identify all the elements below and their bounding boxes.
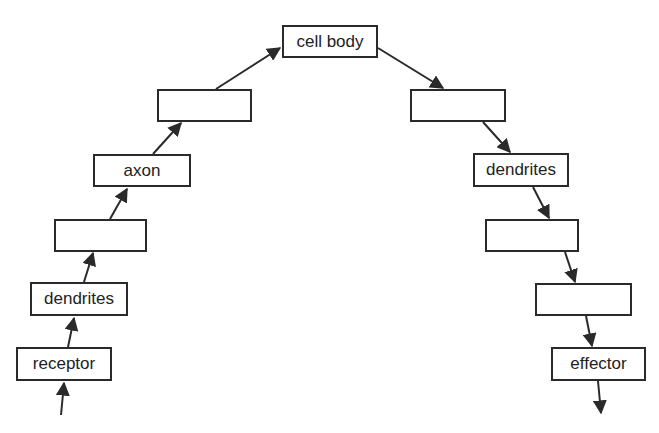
node-dendrites-in: dendrites	[30, 282, 128, 316]
node-blank-left-1	[54, 219, 147, 252]
arrow-effector-to-output	[598, 381, 601, 413]
arrow-blank-left-1-to-axon	[110, 189, 127, 219]
arrow-axon-to-blank-left-2	[153, 123, 181, 154]
node-blank-right-3	[535, 283, 632, 316]
node-dendrites-out: dendrites	[473, 153, 569, 187]
arrow-blank-right-2-to-blank-right-3	[565, 252, 575, 282]
node-cell-body: cell body	[282, 25, 378, 58]
node-blank-right-1	[410, 89, 506, 122]
node-blank-right-2	[485, 219, 579, 252]
node-axon: axon	[93, 154, 191, 187]
arrow-blank-right-3-to-effector	[586, 316, 592, 346]
arrow-blank-right-1-to-dendrites-out	[483, 122, 510, 152]
arrow-receptor-to-dendrites-in	[68, 318, 74, 347]
arrow-dendrites-out-to-blank-right-2	[533, 187, 549, 218]
node-effector: effector	[551, 347, 646, 381]
arrow-blank-left-2-to-cell-body	[216, 48, 280, 89]
node-receptor: receptor	[16, 347, 112, 381]
arrow-dendrites-in-to-blank-left-1	[84, 253, 93, 282]
arrow-cell-body-to-blank-right-1	[378, 48, 443, 88]
neural-pathway-diagram: receptordendritesaxoncell bodydendritese…	[0, 0, 659, 433]
arrow-input-to-receptor	[61, 383, 64, 415]
node-blank-left-2	[157, 89, 252, 122]
